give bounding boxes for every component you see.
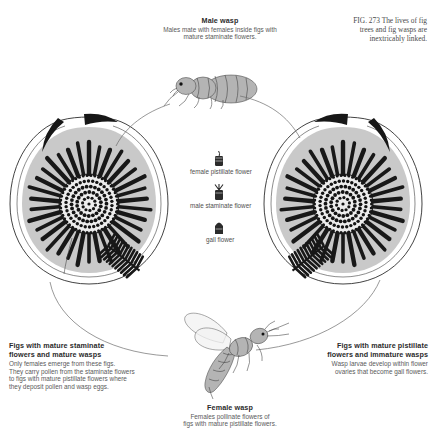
female-wasp-caption-line-1: Females pollinate flowers of [150, 413, 310, 421]
left-fig-title-line-2: flowers and mature wasps [9, 351, 169, 360]
right-fig-title-line-2: flowers and immature wasps [270, 351, 428, 360]
right-fig-caption-line-2: ovaries that become gall flowers. [270, 368, 428, 376]
right-fig-caption-line-1: Wasp larvae develop within flower [270, 360, 428, 368]
left-fig-caption-line-4: they deposit pollen and wasp eggs. [9, 383, 169, 391]
left-fig-caption-line-1: Only females emerge from these figs. [9, 360, 169, 368]
female-wasp-text-block: Female wasp Females pollinate flowers of… [150, 404, 310, 428]
right-fig-text-block: Figs with mature pistillate flowers and … [270, 342, 428, 375]
left-fig-caption-line-3: to figs with mature pistillate flowers w… [9, 375, 169, 383]
left-fig-caption-line-2: They carry pollen from the staminate flo… [9, 368, 169, 376]
illustration-canvas: Male wasp Males mate with females inside… [0, 0, 433, 448]
female-wasp-caption-line-2: figs with mature pistillate flowers. [150, 420, 310, 428]
female-wasp-title: Female wasp [150, 404, 310, 413]
left-fig-text-block: Figs with mature staminate flowers and m… [9, 342, 169, 391]
